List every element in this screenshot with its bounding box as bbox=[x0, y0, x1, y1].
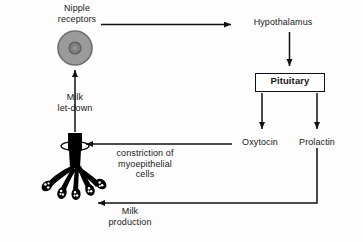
label-prolactin: Prolactin bbox=[288, 137, 346, 148]
diagram-canvas: Nipple receptors Hypothalamus Pituitary … bbox=[0, 0, 363, 242]
mammary-duct-graphic bbox=[39, 133, 108, 200]
duct-block bbox=[68, 133, 82, 151]
label-milk-let-down: Milk let-down bbox=[44, 92, 106, 113]
duct-trunk bbox=[69, 150, 81, 168]
diagram-graphics bbox=[0, 0, 363, 242]
nipple-receptor-graphic bbox=[58, 31, 92, 65]
label-milk-production: Milk production bbox=[92, 206, 168, 227]
label-nipple-receptors: Nipple receptors bbox=[46, 3, 108, 24]
label-constriction-of-myoepithelial-cells: constriction of myoepithelial cells bbox=[103, 148, 187, 180]
label-hypothalamus: Hypothalamus bbox=[240, 17, 326, 28]
label-pituitary: Pituitary bbox=[256, 76, 324, 87]
label-oxytocin: Oxytocin bbox=[232, 137, 288, 148]
